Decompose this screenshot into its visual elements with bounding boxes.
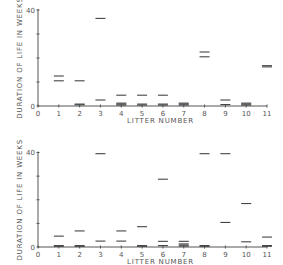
y-tick-label: 40 xyxy=(26,7,35,15)
y-tick-label: 0 xyxy=(31,244,35,252)
x-tick-label: 8 xyxy=(202,110,206,118)
x-tick-label: 8 xyxy=(202,251,206,259)
x-tick-label: 3 xyxy=(98,251,102,259)
x-tick-label: 3 xyxy=(98,110,102,118)
x-tick-label: 2 xyxy=(77,110,81,118)
x-tick-label: 9 xyxy=(223,110,227,118)
x-tick-label: 0 xyxy=(36,251,40,259)
y-tick-label: 0 xyxy=(31,103,35,111)
y-axis-label: DURATION OF LIFE IN WEEKS xyxy=(16,139,24,260)
x-tick-label: 9 xyxy=(223,251,227,259)
x-tick-label: 4 xyxy=(119,251,124,259)
x-tick-label: 1 xyxy=(57,110,61,118)
x-tick-label: 11 xyxy=(263,110,272,118)
x-tick-label: 2 xyxy=(77,251,81,259)
y-tick-label: 40 xyxy=(26,149,35,157)
x-axis-label: LITTER NUMBER xyxy=(127,117,194,125)
x-tick-label: 10 xyxy=(242,251,251,259)
x-axis-label: LITTER NUMBER xyxy=(127,258,194,265)
x-tick-label: 11 xyxy=(263,251,272,259)
x-tick-label: 4 xyxy=(119,110,124,118)
y-axis-label: DURATION OF LIFE IN WEEKS xyxy=(16,0,24,119)
x-tick-label: 0 xyxy=(36,110,40,118)
x-tick-label: 10 xyxy=(242,110,251,118)
figure: 04001234567891011LITTER NUMBERDURATION O… xyxy=(0,0,283,265)
x-tick-label: 1 xyxy=(57,251,61,259)
